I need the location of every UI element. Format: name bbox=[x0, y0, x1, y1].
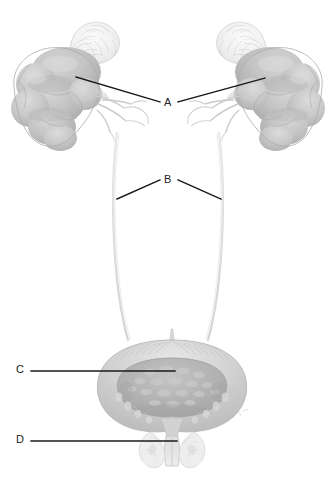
leader-line-b-left bbox=[117, 180, 160, 199]
label-b: B bbox=[164, 174, 172, 185]
left-ureter-shape bbox=[113, 133, 128, 340]
left-ureter-inner-line bbox=[115, 135, 130, 339]
ureters-group bbox=[113, 133, 223, 340]
urinary-system-illustration bbox=[0, 0, 336, 481]
label-c: C bbox=[16, 364, 24, 375]
right-kidney-group bbox=[188, 22, 325, 151]
right-renal-vessels bbox=[205, 96, 240, 132]
anatomy-figure: A B C D bbox=[0, 0, 336, 481]
left-kidney-group bbox=[11, 22, 148, 151]
label-d: D bbox=[16, 434, 24, 445]
label-a: A bbox=[164, 97, 172, 108]
left-kidney-shape bbox=[11, 47, 102, 151]
left-renal-vessels bbox=[96, 96, 131, 132]
leader-line-b-right bbox=[178, 180, 221, 199]
bladder-group bbox=[97, 329, 248, 468]
right-kidney-shape bbox=[234, 47, 325, 151]
right-ureter-shape bbox=[208, 133, 223, 340]
right-ureter-inner-line bbox=[206, 135, 221, 339]
